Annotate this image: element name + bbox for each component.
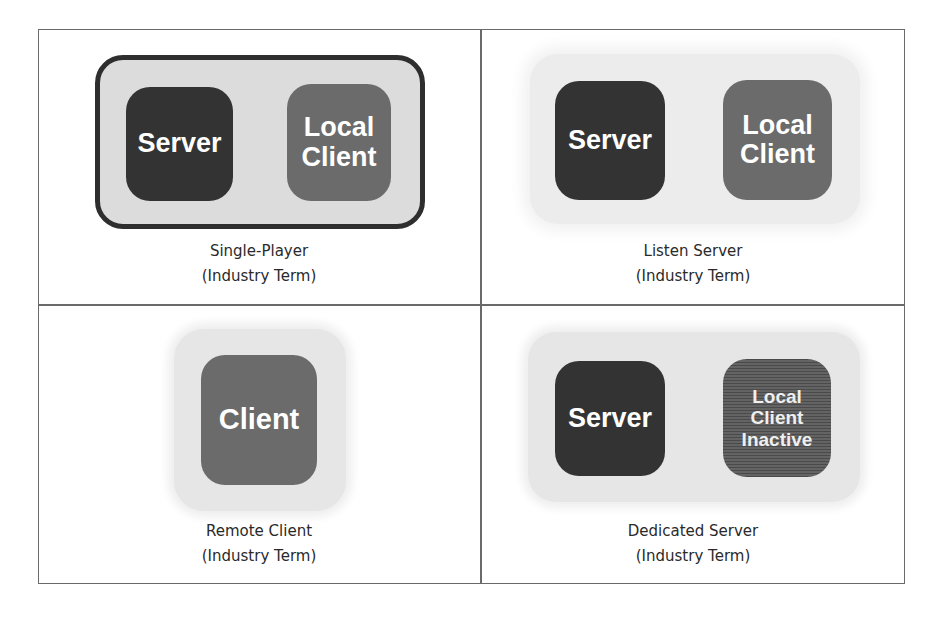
caption-subtitle: (Industry Term) <box>109 264 409 289</box>
listen-server-caption: Listen Server (Industry Term) <box>543 239 843 289</box>
local-client-label-line1: Local <box>742 111 813 140</box>
client-node: Client <box>201 355 317 485</box>
single-player-caption: Single-Player (Industry Term) <box>109 239 409 289</box>
caption-subtitle: (Industry Term) <box>543 544 843 569</box>
server-node-label: Server <box>568 404 652 433</box>
caption-subtitle: (Industry Term) <box>543 264 843 289</box>
local-client-label-line1: Local <box>304 113 375 142</box>
server-node-label: Server <box>137 129 221 158</box>
client-node-label: Client <box>219 404 300 435</box>
server-node-label: Server <box>568 126 652 155</box>
dedicated-server-caption: Dedicated Server (Industry Term) <box>543 519 843 569</box>
inactive-client-label-line2: Client <box>751 407 804 428</box>
inactive-client-label-line3: Inactive <box>742 429 813 450</box>
caption-title: Dedicated Server <box>543 519 843 544</box>
local-client-label-line2: Client <box>740 140 815 169</box>
caption-title: Remote Client <box>109 519 409 544</box>
server-node: Server <box>555 361 665 476</box>
inactive-local-client-node: Local Client Inactive <box>723 359 831 477</box>
local-client-node: Local Client <box>287 84 391 201</box>
caption-title: Single-Player <box>109 239 409 264</box>
grid-horizontal-divider <box>38 304 905 306</box>
remote-client-caption: Remote Client (Industry Term) <box>109 519 409 569</box>
caption-title: Listen Server <box>543 239 843 264</box>
local-client-node: Local Client <box>723 80 832 200</box>
server-node: Server <box>555 81 665 200</box>
caption-subtitle: (Industry Term) <box>109 544 409 569</box>
grid-vertical-divider <box>480 29 482 584</box>
inactive-client-label-line1: Local <box>752 386 802 407</box>
server-node: Server <box>126 87 233 201</box>
local-client-label-line2: Client <box>301 143 376 172</box>
